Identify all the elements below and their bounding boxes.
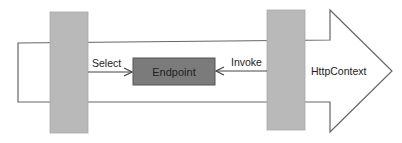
endpoint-label: Endpoint [152,66,195,78]
httpcontext-label: HttpContext [311,65,367,77]
left-middleware-pillar [50,12,88,133]
invoke-label: Invoke [231,56,262,68]
middleware-pipeline-diagram: Endpoint Select Invoke HttpContext [0,0,402,143]
right-middleware-pillar [267,10,305,130]
select-label: Select [92,57,121,69]
